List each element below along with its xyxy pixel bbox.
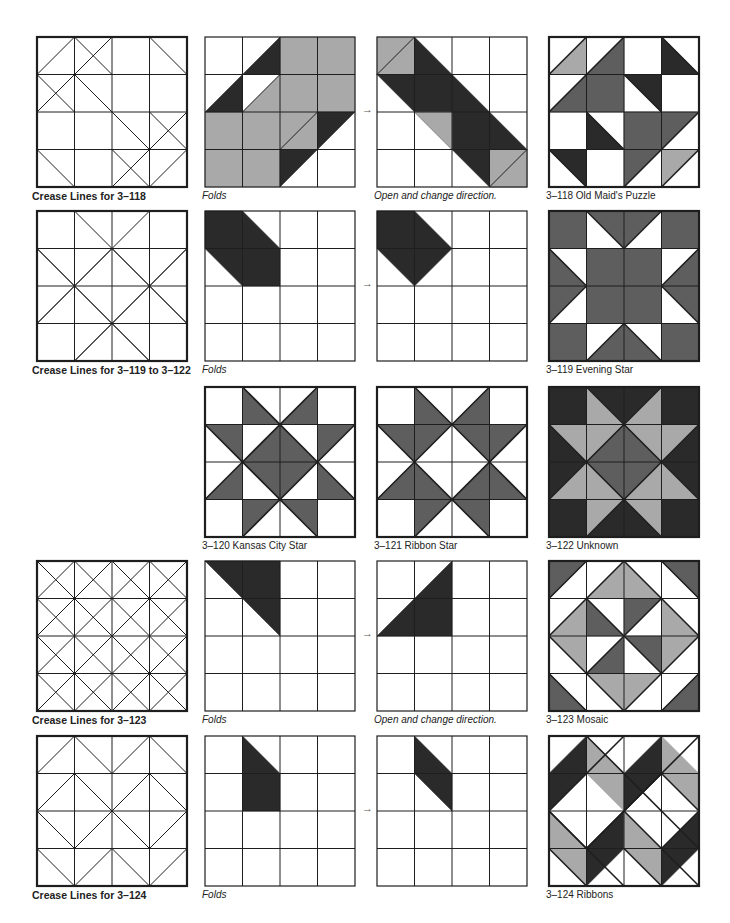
arrow-right-icon: → xyxy=(362,802,373,814)
caption: 3–118 Old Maid's Puzzle xyxy=(546,190,656,201)
fold-diagram: Open and change direction. xyxy=(376,560,528,712)
caption: Folds xyxy=(202,714,226,725)
crease-lines-diagram: Crease Lines for 3–119 to 3–122 xyxy=(36,210,188,362)
quilt-124-graphic xyxy=(548,735,700,887)
open-123-graphic xyxy=(376,560,528,712)
quilt-120-graphic xyxy=(204,386,356,538)
fold-diagram: Open and change direction. xyxy=(376,36,528,188)
quilt-119-graphic xyxy=(548,210,700,362)
folds-124-graphic xyxy=(204,735,356,887)
folds-119-graphic xyxy=(204,210,356,362)
caption: Open and change direction. xyxy=(374,714,497,725)
crease-119-graphic xyxy=(36,210,188,362)
caption: Crease Lines for 3–118 xyxy=(32,190,146,202)
quilt-block: 3–122 Unknown xyxy=(548,386,700,538)
crease-lines-diagram: Crease Lines for 3–123 xyxy=(36,560,188,712)
caption: Folds xyxy=(202,889,226,900)
fold-diagram: Folds xyxy=(204,210,356,362)
crease-lines-diagram: Crease Lines for 3–118 xyxy=(36,36,188,188)
caption: Folds xyxy=(202,190,226,201)
fold-diagram: Folds xyxy=(204,36,356,188)
caption: 3–119 Evening Star xyxy=(546,364,633,375)
quilt-block: 3–119 Evening Star xyxy=(548,210,700,362)
quilt-121-graphic xyxy=(376,386,528,538)
folds-123-graphic xyxy=(204,560,356,712)
fold-diagram: Folds xyxy=(204,735,356,887)
caption: Crease Lines for 3–123 xyxy=(32,714,146,726)
open-119-graphic xyxy=(376,210,528,362)
arrow-right-icon: → xyxy=(362,103,373,115)
quilt-118-graphic xyxy=(548,36,700,188)
caption: 3–123 Mosaic xyxy=(546,714,608,725)
quilt-block: 3–124 Ribbons xyxy=(548,735,700,887)
quilt-block: 3–120 Kansas City Star xyxy=(204,386,356,538)
quilt-123-graphic xyxy=(548,560,700,712)
caption: Open and change direction. xyxy=(374,190,497,201)
caption: 3–120 Kansas City Star xyxy=(202,540,307,551)
fold-diagram xyxy=(376,735,528,887)
caption: 3–121 Ribbon Star xyxy=(374,540,457,551)
fold-diagram: Folds xyxy=(204,560,356,712)
crease-lines-diagram: Crease Lines for 3–124 xyxy=(36,735,188,887)
quilt-block: 3–121 Ribbon Star xyxy=(376,386,528,538)
caption: Crease Lines for 3–124 xyxy=(32,889,146,901)
fold-diagram xyxy=(376,210,528,362)
arrow-right-icon: → xyxy=(362,277,373,289)
crease-123-graphic xyxy=(36,560,188,712)
folds-118-graphic xyxy=(204,36,356,188)
quilt-122-graphic xyxy=(548,386,700,538)
quilt-block: 3–118 Old Maid's Puzzle xyxy=(548,36,700,188)
caption: 3–122 Unknown xyxy=(546,540,618,551)
crease-124-graphic xyxy=(36,735,188,887)
crease-118-graphic xyxy=(36,36,188,188)
open-118-graphic xyxy=(376,36,528,188)
caption: 3–124 Ribbons xyxy=(546,889,613,900)
caption: Crease Lines for 3–119 to 3–122 xyxy=(32,364,191,376)
arrow-right-icon: → xyxy=(362,627,373,639)
open-124-graphic xyxy=(376,735,528,887)
quilt-block: 3–123 Mosaic xyxy=(548,560,700,712)
caption: Folds xyxy=(202,364,226,375)
